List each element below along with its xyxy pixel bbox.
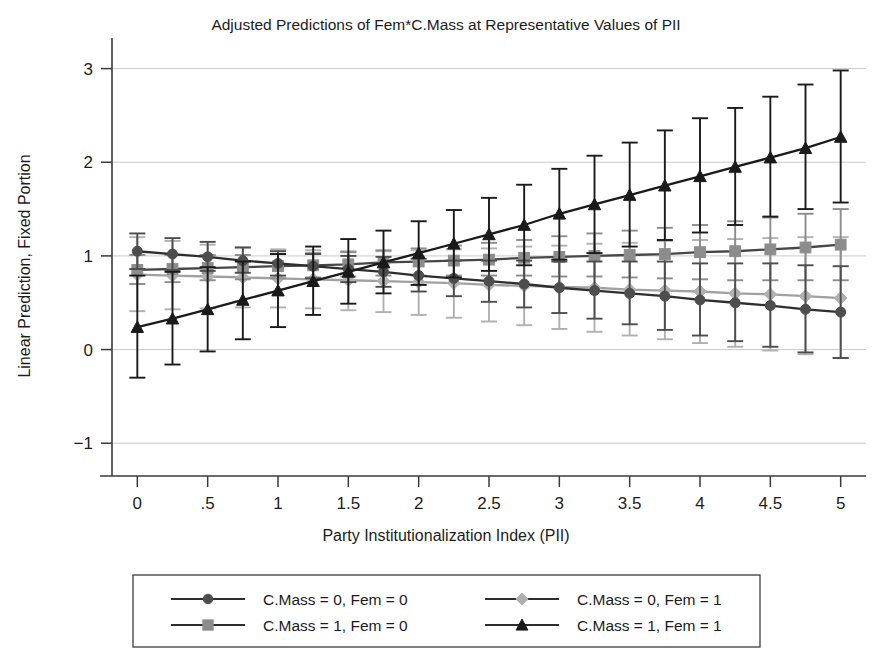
x-tick-label: 2 bbox=[414, 494, 423, 513]
y-tick-label: 0 bbox=[84, 341, 93, 360]
marker-circle bbox=[625, 288, 635, 298]
x-tick-label: 4.5 bbox=[759, 494, 783, 513]
chart-legend: C.Mass = 0, Fem = 0C.Mass = 0, Fem = 1C.… bbox=[133, 575, 760, 647]
marker-circle bbox=[590, 286, 600, 296]
legend-label: C.Mass = 0, Fem = 0 bbox=[263, 591, 408, 608]
x-tick-label: 2.5 bbox=[477, 494, 501, 513]
marker-circle bbox=[484, 276, 494, 286]
marker-circle bbox=[203, 252, 213, 262]
chart-title: Adjusted Predictions of Fem*C.Mass at Re… bbox=[211, 16, 680, 33]
adjusted-predictions-chart: Adjusted Predictions of Fem*C.Mass at Re… bbox=[0, 0, 892, 661]
x-tick-label: 0 bbox=[133, 494, 142, 513]
legend-label: C.Mass = 0, Fem = 1 bbox=[577, 591, 722, 608]
x-tick-label: 3 bbox=[555, 494, 564, 513]
x-tick-label: .5 bbox=[201, 494, 215, 513]
marker-square bbox=[659, 249, 670, 260]
marker-square bbox=[835, 239, 846, 250]
marker-square bbox=[203, 620, 213, 630]
marker-circle bbox=[132, 246, 142, 256]
marker-square bbox=[765, 244, 776, 255]
x-tick-label: 4 bbox=[695, 494, 704, 513]
marker-circle bbox=[203, 594, 213, 604]
marker-square bbox=[730, 246, 741, 257]
legend-label: C.Mass = 1, Fem = 0 bbox=[263, 617, 408, 634]
x-tick-label: 3.5 bbox=[618, 494, 642, 513]
y-axis-title: Linear Prediction, Fixed Portion bbox=[16, 154, 33, 377]
marker-circle bbox=[660, 291, 670, 301]
x-axis-title: Party Institutionalization Index (PII) bbox=[322, 527, 569, 544]
marker-circle bbox=[519, 279, 529, 289]
x-tick-label: 1 bbox=[273, 494, 282, 513]
y-tick-label: 1 bbox=[84, 247, 93, 266]
legend-box bbox=[133, 575, 760, 647]
marker-circle bbox=[836, 307, 846, 317]
marker-square bbox=[624, 250, 635, 261]
x-tick-label: 1.5 bbox=[337, 494, 361, 513]
marker-square bbox=[695, 247, 706, 258]
x-tick-label: 5 bbox=[836, 494, 845, 513]
legend-label: C.Mass = 1, Fem = 1 bbox=[577, 617, 722, 634]
marker-circle bbox=[167, 249, 177, 259]
marker-circle bbox=[554, 283, 564, 293]
marker-circle bbox=[765, 301, 775, 311]
y-tick-label: 2 bbox=[84, 153, 93, 172]
marker-circle bbox=[730, 298, 740, 308]
marker-square bbox=[800, 242, 811, 253]
marker-circle bbox=[801, 304, 811, 314]
y-tick-label: −1 bbox=[74, 434, 93, 453]
marker-circle bbox=[695, 295, 705, 305]
y-tick-label: 3 bbox=[84, 60, 93, 79]
chart-figure: Adjusted Predictions of Fem*C.Mass at Re… bbox=[0, 0, 892, 661]
